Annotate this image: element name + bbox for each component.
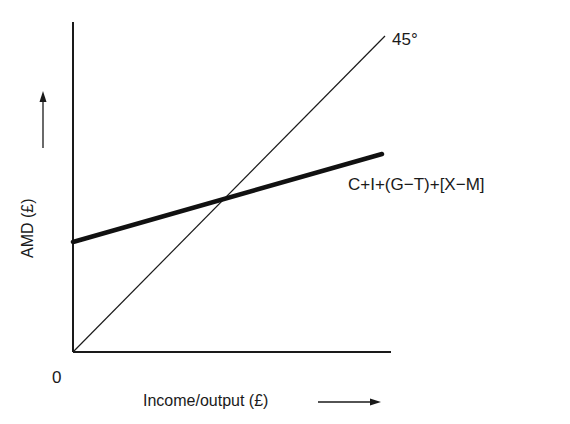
origin-label: 0 — [52, 369, 61, 386]
45-degree-label: 45° — [392, 31, 418, 48]
amd-line-label: C+I+(G−T)+[X−M] — [348, 176, 485, 193]
amd-line — [73, 154, 382, 242]
y-arrow-head-icon — [40, 91, 47, 102]
x-arrow-head-icon — [370, 399, 381, 406]
y-axis-label: AMD (£) — [20, 198, 36, 258]
diagram-canvas — [0, 0, 570, 424]
x-axis-label: Income/output (£) — [143, 393, 268, 409]
45-degree-line — [73, 36, 385, 352]
